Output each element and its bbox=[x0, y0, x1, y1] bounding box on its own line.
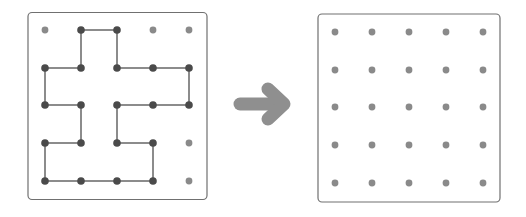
right-grid-panel bbox=[318, 14, 500, 202]
grid-dot bbox=[113, 139, 121, 147]
grid-dot bbox=[42, 27, 49, 34]
grid-dot bbox=[443, 104, 450, 111]
grid-dot bbox=[149, 139, 157, 147]
grid-dot bbox=[480, 104, 487, 111]
grid-dot bbox=[332, 29, 339, 36]
grid-dot bbox=[186, 140, 193, 147]
grid-dot bbox=[77, 177, 85, 185]
grid-dot bbox=[150, 27, 157, 34]
grid-dot bbox=[41, 64, 49, 72]
grid-dot bbox=[113, 26, 121, 34]
grid-dot bbox=[406, 29, 413, 36]
grid-dot bbox=[332, 104, 339, 111]
grid-dot bbox=[77, 101, 85, 109]
grid-dot bbox=[185, 101, 193, 109]
grid-dot bbox=[406, 67, 413, 74]
arrow-icon bbox=[240, 89, 284, 119]
grid-dot bbox=[149, 64, 157, 72]
grid-dot bbox=[443, 67, 450, 74]
grid-dot bbox=[41, 177, 49, 185]
grid-dot bbox=[480, 29, 487, 36]
grid-dot bbox=[369, 104, 376, 111]
grid-dot bbox=[406, 180, 413, 187]
grid-dot bbox=[443, 180, 450, 187]
grid-dot bbox=[149, 101, 157, 109]
grid-dot bbox=[186, 27, 193, 34]
grid-dot bbox=[369, 67, 376, 74]
grid-dot bbox=[369, 180, 376, 187]
grid-dot bbox=[332, 67, 339, 74]
grid-dot bbox=[443, 142, 450, 149]
grid-dot bbox=[443, 29, 450, 36]
grid-dot bbox=[186, 178, 193, 185]
grid-dot bbox=[185, 64, 193, 72]
grid-dot bbox=[332, 142, 339, 149]
grid-dot bbox=[41, 139, 49, 147]
grid-dot bbox=[113, 101, 121, 109]
diagram-canvas bbox=[0, 0, 526, 217]
grid-dot bbox=[406, 104, 413, 111]
grid-dot bbox=[480, 180, 487, 187]
grid-dot bbox=[406, 142, 413, 149]
grid-dot bbox=[77, 139, 85, 147]
grid-dot bbox=[113, 64, 121, 72]
grid-dot bbox=[149, 177, 157, 185]
grid-dot bbox=[369, 142, 376, 149]
grid-dot bbox=[77, 26, 85, 34]
grid-dot bbox=[332, 180, 339, 187]
grid-dot bbox=[480, 67, 487, 74]
grid-dot bbox=[480, 142, 487, 149]
grid-dot bbox=[41, 101, 49, 109]
grid-dot bbox=[113, 177, 121, 185]
grid-dot bbox=[369, 29, 376, 36]
grid-dot bbox=[77, 64, 85, 72]
left-grid-panel bbox=[28, 13, 207, 200]
